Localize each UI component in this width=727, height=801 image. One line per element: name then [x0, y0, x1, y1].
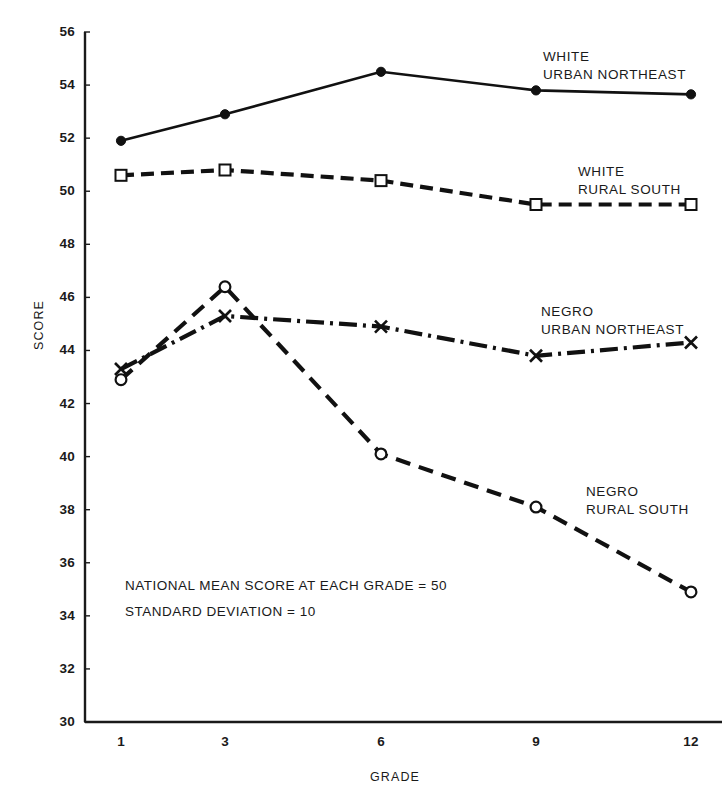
x-tick-label: 9 — [516, 734, 556, 749]
y-tick-label: 40 — [41, 449, 75, 464]
data-point-marker — [220, 165, 231, 176]
y-tick-label: 32 — [41, 661, 75, 676]
data-point-marker — [531, 86, 540, 95]
y-tick-label: 52 — [41, 130, 75, 145]
series-label-line: NEGRO — [586, 483, 689, 501]
y-tick-label: 50 — [41, 183, 75, 198]
series-label: WHITERURAL SOUTH — [578, 163, 681, 199]
y-tick-label: 56 — [41, 24, 75, 39]
data-point-marker — [531, 199, 542, 210]
y-tick-label: 44 — [41, 342, 75, 357]
series-label: NEGROURBAN NORTHEAST — [541, 303, 684, 339]
data-point-marker — [116, 374, 127, 385]
x-tick-label: 3 — [205, 734, 245, 749]
chart-canvas — [0, 0, 727, 801]
y-axis-title: SCORE — [32, 300, 46, 350]
series-label: NEGRORURAL SOUTH — [586, 483, 689, 519]
chart-root: 3032343638404244464850525456 136912 SCOR… — [0, 0, 727, 801]
chart-annotation: NATIONAL MEAN SCORE AT EACH GRADE = 50 — [125, 578, 447, 593]
y-tick-label: 54 — [41, 77, 75, 92]
x-axis-title: GRADE — [370, 770, 420, 784]
data-point-marker — [220, 110, 229, 119]
data-point-marker — [116, 136, 125, 145]
data-point-marker — [686, 90, 695, 99]
series-label-line: NEGRO — [541, 303, 684, 321]
series-label-line: RURAL SOUTH — [586, 501, 689, 519]
series-label-line: URBAN NORTHEAST — [543, 66, 686, 84]
y-tick-label: 34 — [41, 608, 75, 623]
data-point-marker — [220, 281, 231, 292]
data-point-marker — [116, 170, 127, 181]
x-tick-label: 12 — [671, 734, 711, 749]
data-point-marker — [376, 449, 387, 460]
y-tick-label: 30 — [41, 714, 75, 729]
data-point-marker — [531, 502, 542, 513]
y-tick-label: 42 — [41, 396, 75, 411]
data-point-marker — [686, 587, 697, 598]
data-point-marker — [685, 337, 697, 349]
data-point-marker — [686, 199, 697, 210]
series-label-line: RURAL SOUTH — [578, 181, 681, 199]
data-point-marker — [376, 67, 385, 76]
y-tick-label: 48 — [41, 236, 75, 251]
x-tick-label: 1 — [101, 734, 141, 749]
y-tick-label: 46 — [41, 289, 75, 304]
chart-annotation: STANDARD DEVIATION = 10 — [125, 604, 316, 619]
y-tick-label: 36 — [41, 555, 75, 570]
x-tick-label: 6 — [361, 734, 401, 749]
series-label-line: URBAN NORTHEAST — [541, 321, 684, 339]
y-tick-label: 38 — [41, 502, 75, 517]
series-label: WHITEURBAN NORTHEAST — [543, 48, 686, 84]
series-label-line: WHITE — [543, 48, 686, 66]
data-point-marker — [376, 175, 387, 186]
series-label-line: WHITE — [578, 163, 681, 181]
